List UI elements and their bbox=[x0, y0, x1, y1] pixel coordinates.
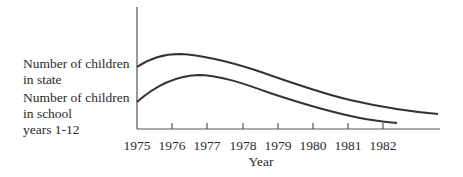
x-axis-ticks bbox=[172, 123, 383, 129]
line-chart: 1975 1976 1977 1978 1979 1980 1981 1982 … bbox=[0, 0, 463, 177]
svg-text:1981: 1981 bbox=[335, 138, 362, 153]
series-children-in-school bbox=[137, 75, 397, 123]
svg-text:1982: 1982 bbox=[370, 138, 397, 153]
x-axis-tick-labels: 1975 1976 1977 1978 1979 1980 1981 1982 bbox=[124, 138, 397, 153]
svg-text:1977: 1977 bbox=[194, 138, 221, 153]
svg-text:1980: 1980 bbox=[300, 138, 327, 153]
svg-text:1979: 1979 bbox=[265, 138, 292, 153]
x-axis-title: Year bbox=[249, 154, 274, 169]
svg-text:1976: 1976 bbox=[159, 138, 186, 153]
svg-text:1975: 1975 bbox=[124, 138, 151, 153]
svg-text:1978: 1978 bbox=[230, 138, 257, 153]
series-children-in-state bbox=[137, 54, 438, 114]
